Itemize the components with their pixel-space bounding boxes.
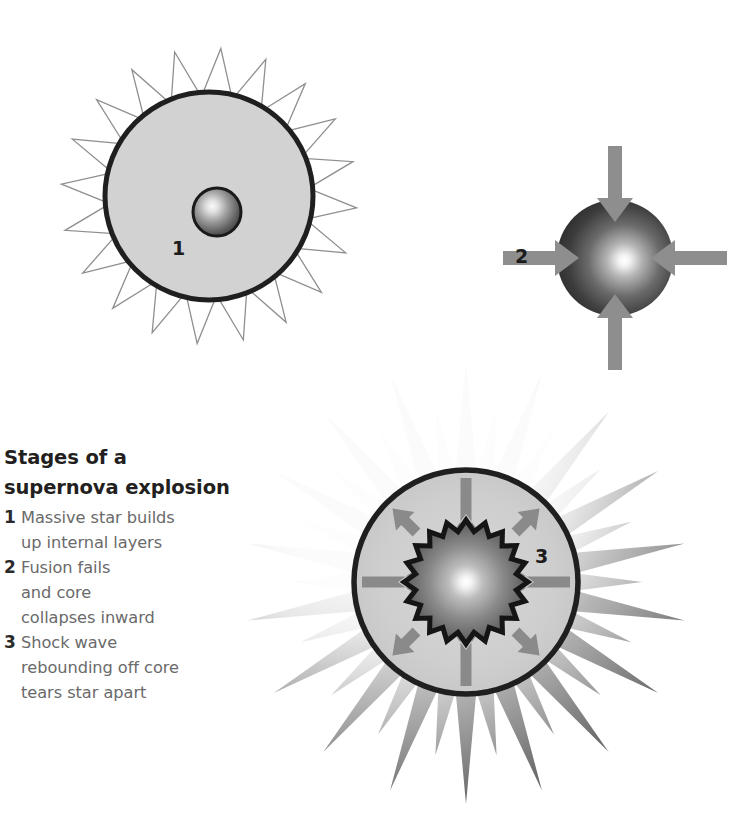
legend-title-line-2: supernova explosion bbox=[4, 478, 254, 498]
legend-list: 1Massive star buildsup internal layers2F… bbox=[4, 505, 254, 705]
shockwave-spike bbox=[247, 590, 364, 621]
legend-item-text-line: Shock wave bbox=[21, 630, 179, 655]
legend-item: 1Massive star buildsup internal layers bbox=[4, 505, 254, 555]
stage-1-core bbox=[193, 188, 241, 236]
stage-2-illustration bbox=[503, 146, 727, 370]
shockwave-spike bbox=[568, 543, 685, 574]
legend-item-text-line: rebounding off core bbox=[21, 655, 179, 680]
legend-item-text-line: Massive star builds bbox=[21, 505, 175, 530]
legend-item-text-line: tears star apart bbox=[21, 680, 179, 705]
legend-item: 3Shock waverebounding off coretears star… bbox=[4, 630, 254, 705]
legend-item-number: 1 bbox=[4, 505, 21, 530]
shockwave-spike bbox=[290, 573, 360, 591]
stage-2-number-label: 2 bbox=[515, 247, 528, 266]
legend-item-number: 3 bbox=[4, 630, 21, 655]
shockwave-spike bbox=[568, 590, 685, 621]
shockwave-spike bbox=[455, 360, 476, 477]
legend-item-text-line: Fusion fails bbox=[21, 555, 155, 580]
legend-item-text-line: and core bbox=[21, 580, 155, 605]
stage-3-number-label: 3 bbox=[535, 547, 548, 566]
legend-item-number: 2 bbox=[4, 555, 21, 580]
shockwave-spike bbox=[572, 573, 642, 591]
corona-spike bbox=[186, 295, 215, 343]
corona-spike bbox=[202, 48, 231, 96]
stage-1-illustration bbox=[61, 48, 356, 343]
legend-item-text-line: up internal layers bbox=[21, 530, 175, 555]
stage-1-number-label: 1 bbox=[172, 239, 185, 258]
corona-spike bbox=[61, 173, 109, 202]
shockwave-spike bbox=[247, 543, 364, 574]
legend-item-text: Massive star buildsup internal layers bbox=[21, 505, 175, 555]
stage-3-illustration bbox=[247, 360, 684, 804]
legend-item-text-line: collapses inward bbox=[21, 605, 155, 630]
legend-item: 2Fusion failsand corecollapses inward bbox=[4, 555, 254, 630]
legend-block: Stages of a supernova explosion 1Massive… bbox=[4, 448, 254, 705]
legend-title-line-1: Stages of a bbox=[4, 448, 254, 468]
legend-item-text: Fusion failsand corecollapses inward bbox=[21, 555, 155, 630]
legend-item-text: Shock waverebounding off coretears star … bbox=[21, 630, 179, 705]
corona-spike bbox=[308, 189, 356, 218]
shockwave-spike bbox=[455, 687, 476, 804]
